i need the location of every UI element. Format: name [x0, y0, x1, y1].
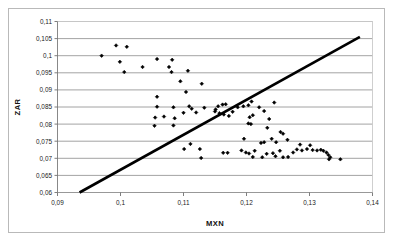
- data-point: [274, 154, 278, 158]
- data-point: [141, 65, 145, 69]
- x-axis-title: MXN: [206, 219, 224, 228]
- data-point: [247, 104, 251, 108]
- data-point: [221, 103, 225, 107]
- data-point: [198, 147, 202, 151]
- x-tick-label: 0,13: [303, 199, 316, 206]
- y-axis-tick-labels: 0,060,0650,070,0750,080,0850,090,0950,10…: [36, 18, 52, 196]
- data-point: [257, 106, 261, 110]
- data-point: [250, 100, 254, 104]
- data-point: [100, 54, 104, 58]
- data-point: [153, 124, 157, 128]
- data-point: [266, 126, 270, 130]
- data-point: [272, 101, 276, 105]
- data-point: [200, 82, 204, 86]
- data-point: [227, 114, 231, 118]
- data-point: [155, 105, 159, 109]
- data-point: [199, 156, 203, 160]
- data-point: [305, 147, 309, 151]
- data-point: [300, 149, 304, 153]
- data-point: [231, 110, 235, 114]
- data-point: [186, 69, 190, 73]
- data-point: [315, 149, 319, 153]
- data-point: [173, 117, 177, 121]
- data-point: [153, 116, 157, 120]
- data-point: [278, 149, 282, 153]
- data-point: [224, 103, 228, 107]
- data-point: [114, 44, 118, 48]
- scatter-chart-figure: 0,060,0650,070,0750,080,0850,090,0950,10…: [0, 0, 394, 242]
- data-point: [184, 90, 188, 94]
- grid-lines: [58, 22, 373, 193]
- data-point: [253, 149, 257, 153]
- x-tick-label: 0,1: [116, 199, 125, 206]
- data-point: [226, 151, 230, 155]
- data-points: [100, 44, 342, 161]
- x-tick-label: 0,11: [178, 199, 190, 206]
- data-point: [203, 106, 207, 110]
- data-point: [308, 144, 312, 148]
- data-point: [265, 152, 269, 156]
- data-point: [248, 116, 252, 120]
- y-tick-label: 0,07: [40, 155, 53, 162]
- data-point: [221, 151, 225, 155]
- y-tick-label: 0,085: [36, 103, 52, 110]
- y-tick-label: 0,11: [40, 18, 52, 25]
- chart-canvas: 0,060,0650,070,0750,080,0850,090,0950,10…: [0, 0, 394, 242]
- data-point: [311, 148, 315, 152]
- data-point: [125, 45, 129, 49]
- data-point: [259, 141, 263, 145]
- data-point: [271, 151, 275, 155]
- x-axis-tick-labels: 0,090,10,110,120,130,14: [51, 199, 379, 206]
- x-tick-label: 0,12: [240, 199, 253, 206]
- x-tick-label: 0,09: [51, 199, 64, 206]
- data-point: [270, 137, 274, 141]
- data-point: [251, 113, 255, 117]
- y-tick-label: 0,065: [36, 172, 52, 179]
- data-point: [123, 70, 127, 74]
- data-point: [295, 148, 299, 152]
- data-point: [190, 107, 194, 111]
- data-point: [262, 109, 266, 113]
- data-point: [242, 137, 246, 141]
- data-point: [298, 143, 302, 147]
- y-tick-label: 0,105: [36, 35, 52, 42]
- data-point: [182, 111, 186, 115]
- data-point: [194, 111, 198, 115]
- x-tick-label: 0,14: [366, 199, 379, 206]
- data-point: [162, 115, 166, 119]
- data-point: [155, 95, 159, 99]
- data-point: [172, 106, 176, 110]
- y-axis-title: ZAR: [13, 98, 22, 115]
- y-tick-label: 0,06: [40, 189, 53, 196]
- data-point: [291, 151, 295, 155]
- y-tick-label: 0,075: [36, 138, 52, 145]
- data-point: [167, 65, 171, 69]
- data-point: [118, 60, 122, 64]
- data-point: [179, 80, 183, 84]
- data-point: [155, 57, 159, 61]
- data-point: [170, 58, 174, 62]
- data-point: [240, 149, 244, 153]
- data-point: [170, 70, 174, 74]
- data-point: [182, 147, 186, 151]
- data-point: [267, 117, 271, 121]
- x-axis-ticks: [58, 193, 373, 197]
- data-point: [189, 142, 193, 146]
- y-tick-label: 0,095: [36, 69, 52, 76]
- y-tick-label: 0,08: [40, 121, 53, 128]
- y-tick-label: 0,09: [40, 86, 53, 93]
- data-point: [242, 105, 246, 109]
- y-tick-label: 0,1: [43, 52, 52, 59]
- data-point: [187, 105, 191, 109]
- data-point: [216, 105, 220, 109]
